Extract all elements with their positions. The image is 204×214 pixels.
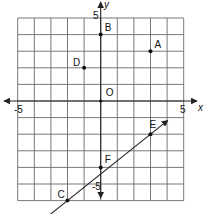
coordinate-plane: ABCDEFO x y -5 5 5 -5 — [0, 0, 204, 214]
point-d-marker — [82, 66, 86, 70]
point-c-marker — [66, 199, 70, 203]
point-d-label: D — [73, 57, 80, 68]
origin-marker — [99, 99, 102, 102]
x-max-tick-label: 5 — [180, 104, 186, 115]
point-e-label: E — [150, 119, 157, 130]
y-axis-label: y — [103, 0, 110, 10]
point-a-marker — [149, 49, 153, 53]
plotted-points: ABCDEFO — [58, 22, 162, 203]
x-min-tick-label: -5 — [14, 104, 23, 115]
point-b-label: B — [105, 22, 112, 33]
point-a-label: A — [155, 39, 162, 50]
point-f-label: F — [105, 154, 111, 165]
point-e-marker — [149, 132, 153, 136]
x-axis-label: x — [197, 102, 204, 113]
point-c-label: C — [58, 189, 65, 200]
point-f-marker — [99, 165, 103, 169]
y-max-tick-label: 5 — [93, 10, 99, 21]
point-o-label: O — [106, 87, 114, 98]
y-min-tick-label: -5 — [92, 181, 101, 192]
point-b-marker — [99, 33, 103, 37]
